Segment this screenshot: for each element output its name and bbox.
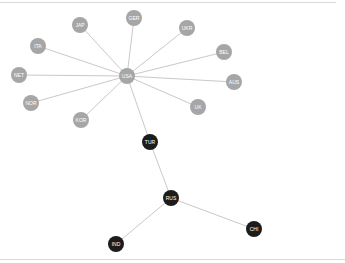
- node-bel[interactable]: BEL: [216, 44, 232, 60]
- node-label: USA: [122, 73, 133, 79]
- node-label: UK: [195, 104, 203, 110]
- node-ind[interactable]: IND: [108, 236, 124, 252]
- node-nor[interactable]: NOR: [23, 95, 39, 111]
- edge-rus-chi: [171, 198, 254, 229]
- network-graph: USAJAPGERUKRBELAUSUKITANETNORKORTURRUSCH…: [0, 0, 345, 263]
- node-label: KOR: [76, 117, 87, 123]
- node-label: GER: [129, 15, 140, 21]
- node-label: BEL: [219, 49, 229, 55]
- node-uk[interactable]: UK: [190, 99, 206, 115]
- node-ita[interactable]: ITA: [30, 38, 46, 54]
- edge-usa-net: [19, 75, 127, 76]
- node-label: TUR: [145, 139, 156, 145]
- edge-usa-tur: [127, 76, 150, 142]
- node-tur[interactable]: TUR: [142, 134, 158, 150]
- node-aus[interactable]: AUS: [226, 74, 242, 90]
- edge-usa-uk: [127, 76, 198, 107]
- node-label: JAP: [75, 22, 85, 28]
- edge-tur-rus: [150, 142, 171, 198]
- node-label: RUS: [166, 195, 177, 201]
- node-label: IND: [112, 241, 121, 247]
- node-label: NOR: [25, 100, 37, 106]
- node-usa[interactable]: USA: [119, 68, 135, 84]
- node-label: AUS: [229, 79, 240, 85]
- node-label: CHI: [250, 226, 259, 232]
- node-jap[interactable]: JAP: [72, 17, 88, 33]
- edge-usa-ger: [127, 18, 134, 76]
- node-ukr[interactable]: UKR: [179, 20, 195, 36]
- node-ger[interactable]: GER: [126, 10, 142, 26]
- node-label: NET: [14, 72, 24, 78]
- node-label: ITA: [34, 43, 42, 49]
- edge-rus-ind: [116, 198, 171, 244]
- node-rus[interactable]: RUS: [163, 190, 179, 206]
- node-chi[interactable]: CHI: [246, 221, 262, 237]
- node-kor[interactable]: KOR: [73, 112, 89, 128]
- nodes-layer: USAJAPGERUKRBELAUSUKITANETNORKORTURRUSCH…: [11, 10, 262, 252]
- node-label: UKR: [182, 25, 193, 31]
- edge-usa-aus: [127, 76, 234, 82]
- node-net[interactable]: NET: [11, 67, 27, 83]
